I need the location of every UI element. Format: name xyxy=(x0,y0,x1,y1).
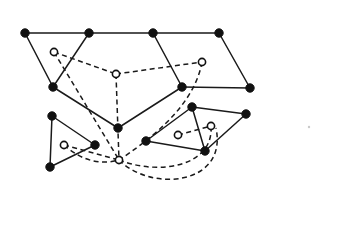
edge-f4-f7 xyxy=(219,33,250,88)
node-h1[interactable] xyxy=(50,48,57,55)
graph-canvas xyxy=(0,0,361,243)
node-f7[interactable] xyxy=(246,84,254,92)
node-f12[interactable] xyxy=(188,103,196,111)
node-f14[interactable] xyxy=(142,137,150,145)
node-h3[interactable] xyxy=(198,58,205,65)
edge-f12-f13 xyxy=(192,107,246,114)
node-h7[interactable] xyxy=(207,122,214,129)
edge-f12-f14 xyxy=(146,107,192,141)
artifact-speck xyxy=(308,126,310,128)
edge-f9-f10 xyxy=(50,116,52,167)
graph-figure xyxy=(0,0,361,243)
node-f3[interactable] xyxy=(149,29,157,37)
edge-f10-f11 xyxy=(50,145,95,167)
node-f9[interactable] xyxy=(48,112,56,120)
node-f4[interactable] xyxy=(215,29,223,37)
node-f5[interactable] xyxy=(49,83,57,91)
edge-f1-f5 xyxy=(25,33,53,87)
node-h2[interactable] xyxy=(112,70,119,77)
node-f15[interactable] xyxy=(201,147,209,155)
edge-f14-f15 xyxy=(146,141,205,151)
node-f10[interactable] xyxy=(46,163,54,171)
edge-curve-h4-h7-inner xyxy=(119,126,211,167)
node-h5[interactable] xyxy=(60,141,67,148)
edge-f13-f15 xyxy=(205,114,246,151)
edge-h2-h4 xyxy=(116,74,119,160)
node-f6[interactable] xyxy=(178,83,186,91)
node-f13[interactable] xyxy=(242,110,250,118)
node-h4[interactable] xyxy=(115,156,122,163)
node-f8[interactable] xyxy=(114,124,122,132)
edge-f9-f11 xyxy=(52,116,95,145)
edge-f5-f8 xyxy=(53,87,118,128)
dashed-edge-group xyxy=(54,52,217,179)
node-f1[interactable] xyxy=(21,29,29,37)
edge-f3-f6 xyxy=(153,33,182,87)
node-f2[interactable] xyxy=(85,29,93,37)
edge-h6-h7 xyxy=(178,126,211,135)
edge-h2-h3 xyxy=(116,62,202,74)
node-h6[interactable] xyxy=(174,131,181,138)
node-f11[interactable] xyxy=(91,141,99,149)
